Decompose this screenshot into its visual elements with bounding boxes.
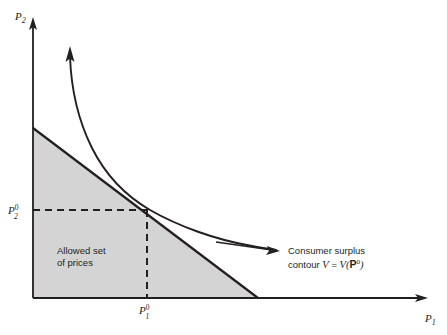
contour-annotation-paren-close: ) xyxy=(359,259,364,271)
allowed-set-label-line2: of prices xyxy=(57,257,93,268)
annotation-leader-line xyxy=(216,242,272,250)
allowed-set-label-line1: Allowed set xyxy=(57,245,106,256)
x-axis-label-sub: 1 xyxy=(432,318,436,327)
contour-annotation-prefix: contour xyxy=(288,259,322,270)
contour-annotation-line1: Consumer surplus xyxy=(288,245,365,256)
y-axis-label-sub: 2 xyxy=(22,16,26,25)
y-axis-label: P2 xyxy=(14,10,26,25)
contour-annotation-line2: contour V = V(P0) xyxy=(288,258,364,271)
x-tick-sub: 1 xyxy=(145,312,149,321)
x-tick-label: P01 xyxy=(138,303,150,321)
economics-diagram: P2 P1 P02 P01 Allowed set of prices Cons… xyxy=(0,0,447,335)
x-axis-label: P1 xyxy=(424,312,436,327)
y-tick-sub: 2 xyxy=(14,212,18,221)
contour-annotation-eq: = xyxy=(329,259,340,270)
contour-annotation-bold-p: P xyxy=(350,258,357,270)
x-tick-sup: 0 xyxy=(146,303,150,312)
y-tick-label: P02 xyxy=(7,203,19,221)
y-tick-sup: 0 xyxy=(15,203,19,212)
diagram-canvas: P2 P1 P02 P01 Allowed set of prices Cons… xyxy=(0,0,447,335)
annotation-leader-arrowhead-icon xyxy=(266,246,280,255)
